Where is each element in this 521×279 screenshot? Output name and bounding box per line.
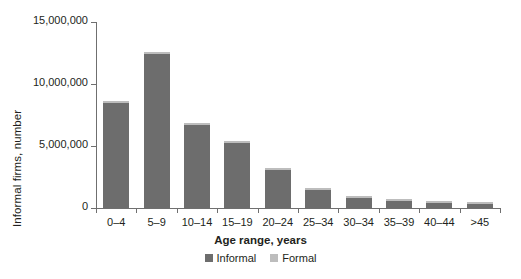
y-tick-label: 10,000,000 [6,76,88,88]
bar-segment-informal[interactable] [184,125,210,208]
bar-segment-informal[interactable] [265,170,291,208]
y-tick-mark [91,84,96,85]
bar-group[interactable] [144,52,170,208]
bar-segment-informal[interactable] [346,198,372,208]
bar-segment-informal[interactable] [103,103,129,208]
y-axis-title: Informal firms, number [7,0,27,227]
legend-swatch-icon [205,254,213,262]
bar-group[interactable] [224,141,250,208]
x-tick-mark [419,208,420,213]
x-tick-mark [298,208,299,213]
bar-group[interactable] [265,168,291,208]
bar-group[interactable] [103,101,129,208]
bar-segment-informal[interactable] [224,143,250,208]
bar-group[interactable] [184,123,210,208]
chart-legend: InformalFormal [0,252,521,264]
y-tick-label: 15,000,000 [6,14,88,26]
x-tick-mark [177,208,178,213]
x-tick-mark [136,208,137,213]
legend-swatch-icon [270,254,278,262]
bar-segment-informal[interactable] [386,201,412,208]
x-tick-mark [500,208,501,213]
legend-label: Informal [217,252,257,264]
x-tick-label: >45 [452,216,508,228]
legend-entry[interactable]: Formal [270,252,316,264]
x-tick-mark [460,208,461,213]
x-tick-mark [338,208,339,213]
y-tick-label: 0 [6,200,88,212]
legend-entry[interactable]: Informal [205,252,257,264]
x-tick-mark [217,208,218,213]
bar-segment-informal[interactable] [426,203,452,208]
x-tick-mark [379,208,380,213]
y-axis-line [96,22,97,208]
legend-label: Formal [282,252,316,264]
x-tick-mark [96,208,97,213]
x-tick-mark [258,208,259,213]
bar-chart-figure: Informal firms, number 05,000,00010,000,… [0,0,521,279]
bar-group[interactable] [386,199,412,208]
bar-group[interactable] [346,196,372,208]
bar-group[interactable] [467,202,493,208]
bar-segment-informal[interactable] [144,54,170,208]
y-tick-label: 5,000,000 [6,138,88,150]
y-tick-mark [91,22,96,23]
bar-segment-informal[interactable] [305,190,331,208]
x-axis-title: Age range, years [0,234,521,246]
bar-group[interactable] [305,188,331,208]
bar-segment-informal[interactable] [467,204,493,208]
bar-group[interactable] [426,201,452,208]
y-tick-mark [91,146,96,147]
plot-area: 05,000,00010,000,00015,000,000 0–45–910–… [96,22,500,208]
